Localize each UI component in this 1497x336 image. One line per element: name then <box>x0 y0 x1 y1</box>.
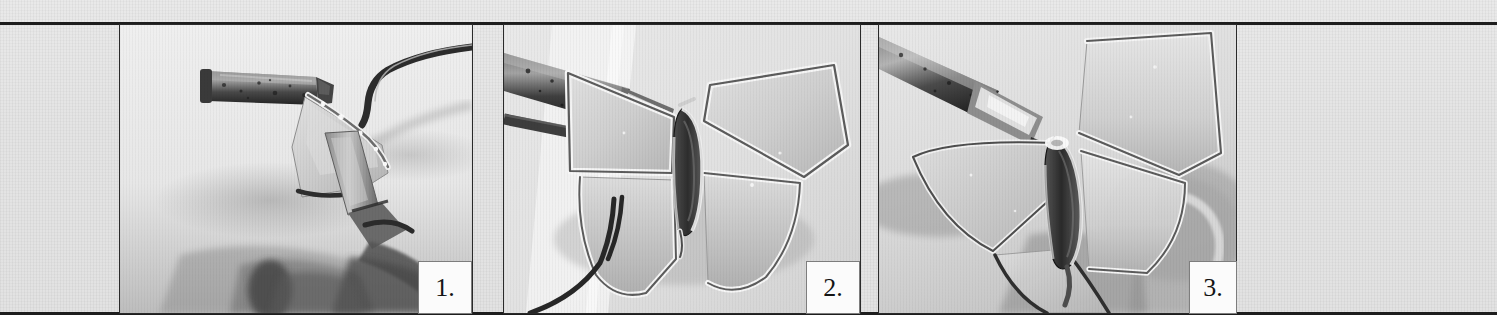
figure-panel-3 <box>878 24 1237 314</box>
figure-number-3: 3. <box>1189 261 1237 314</box>
panel-3-scene <box>879 25 1236 313</box>
page-root: 1. <box>0 0 1497 336</box>
figure-number-2-label: 2. <box>823 275 843 301</box>
figure-number-3-label: 3. <box>1203 275 1223 301</box>
figure-number-1-label: 1. <box>435 275 455 301</box>
panel-3-illustration <box>879 25 1236 313</box>
figure-number-2: 2. <box>806 261 860 314</box>
figure-number-1: 1. <box>418 261 472 314</box>
